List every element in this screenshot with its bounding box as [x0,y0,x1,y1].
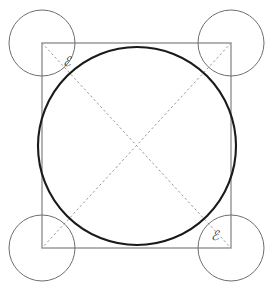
label-epsilon-bottom-right: ℰ [211,228,220,243]
figure-root: ℰ ℰ [0,0,274,295]
label-epsilon-top-left: ℰ [63,54,72,69]
geometry-diagram: ℰ ℰ [0,0,274,295]
